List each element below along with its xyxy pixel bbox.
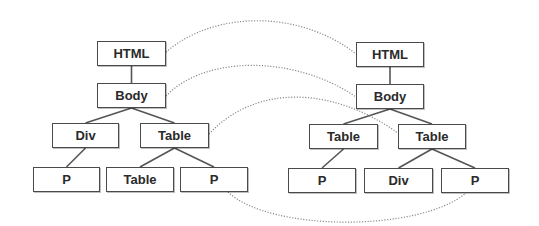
tree-edge [399,149,433,168]
left-node-p: P [180,167,248,192]
tree-edge [132,108,175,123]
left-node-div: Div [52,123,119,148]
tree-edge [390,109,432,124]
left-node-body: Body [97,83,166,108]
left-node-html: HTML [97,41,166,66]
right-node-body: Body [356,84,424,109]
right-node-table: Table [309,124,378,149]
tree-edge [344,109,391,124]
mapping-curve [166,65,356,97]
mapping-curve [228,192,466,222]
right-node-p: P [288,168,356,193]
tree-edge [175,148,215,167]
tree-edge [86,108,132,123]
tree-edge [67,148,86,167]
left-node-p: P [33,167,100,192]
tree-edge [140,148,175,167]
right-node-div: Div [364,168,433,193]
tree-edge [432,149,475,168]
right-node-table: Table [398,124,466,149]
left-node-table: Table [106,167,174,192]
right-node-p: P [441,168,509,193]
left-node-table: Table [140,123,209,148]
mapping-curve [166,21,356,54]
right-node-html: HTML [356,42,424,67]
tree-edge [322,149,344,168]
